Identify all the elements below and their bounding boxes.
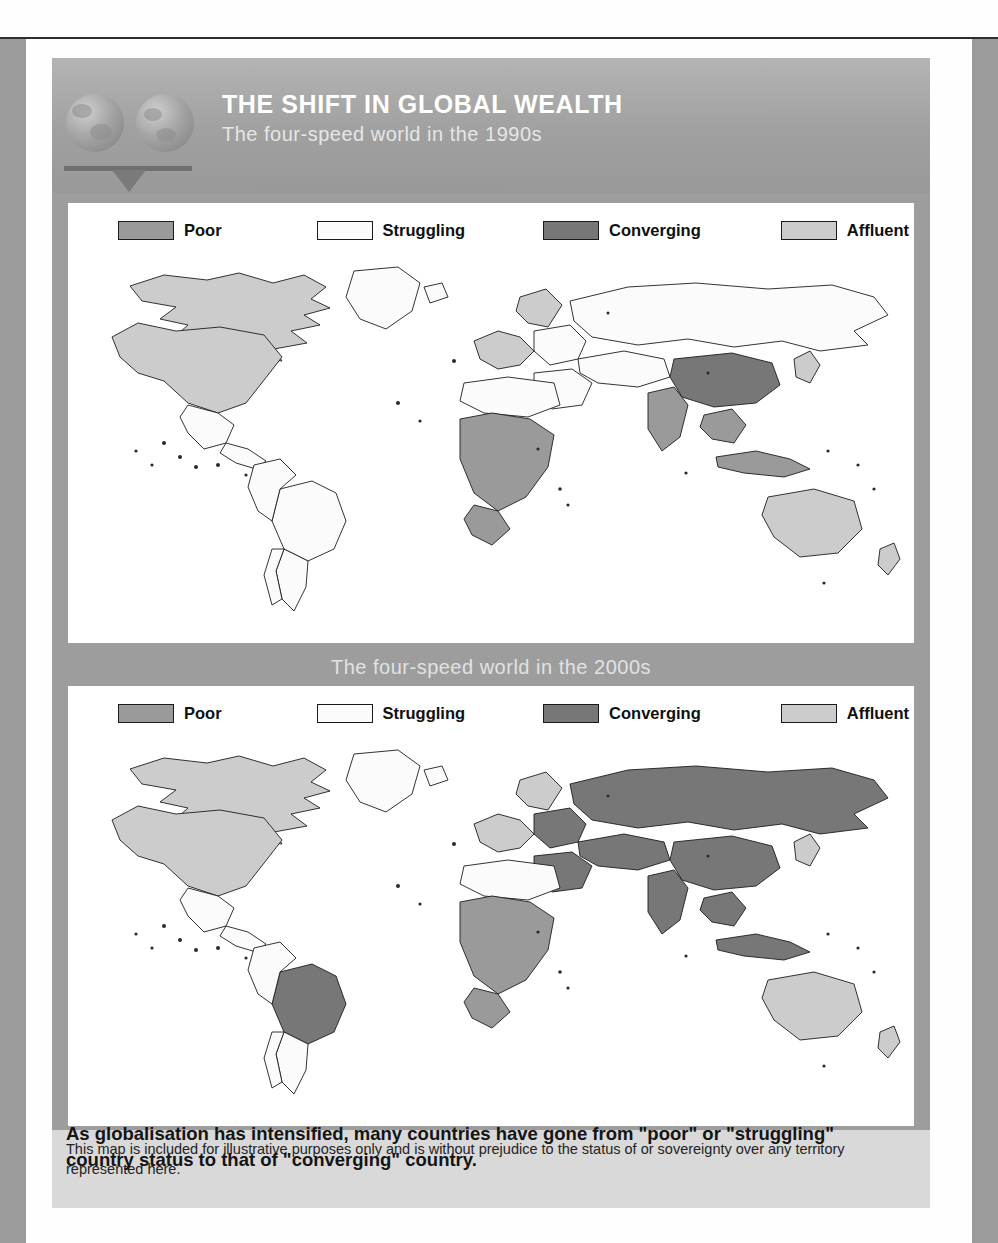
map-region[interactable] bbox=[762, 972, 862, 1040]
map-island-dot bbox=[150, 946, 153, 949]
map-region[interactable] bbox=[112, 806, 282, 896]
map-region[interactable] bbox=[460, 377, 560, 417]
legend-label-affluent: Affluent bbox=[847, 221, 909, 240]
header-subtitle: The four-speed world in the 1990s bbox=[222, 124, 623, 144]
map-island-dot bbox=[244, 473, 247, 476]
map-region[interactable] bbox=[578, 834, 670, 870]
map-island-dot bbox=[216, 463, 220, 467]
map-region[interactable] bbox=[346, 750, 420, 812]
legend-label-poor-2: Poor bbox=[184, 704, 222, 723]
caption-text: As globalisation has intensified, many c… bbox=[66, 1121, 896, 1172]
map-island-dot bbox=[178, 455, 182, 459]
legend-item-struggling[interactable]: Struggling bbox=[317, 221, 465, 240]
map-island-dot bbox=[684, 954, 687, 957]
map-region[interactable] bbox=[878, 543, 900, 575]
map-island-dot bbox=[162, 924, 166, 928]
map-region[interactable] bbox=[460, 896, 554, 994]
map-region[interactable] bbox=[112, 323, 282, 413]
map-region[interactable] bbox=[670, 836, 780, 890]
map-island-dot bbox=[826, 932, 829, 935]
map-region[interactable] bbox=[762, 489, 862, 557]
map-region[interactable] bbox=[578, 351, 670, 387]
map-region[interactable] bbox=[516, 772, 562, 810]
map-island-dot bbox=[162, 441, 166, 445]
legend-2000s: Poor Struggling Converging Affluent bbox=[68, 696, 914, 730]
legend-item-converging-2[interactable]: Converging bbox=[543, 704, 701, 723]
map-island-dot bbox=[607, 795, 610, 798]
legend-item-affluent-2[interactable]: Affluent bbox=[781, 704, 909, 723]
map-region[interactable] bbox=[794, 834, 820, 866]
legend-label-struggling-2: Struggling bbox=[383, 704, 465, 723]
legend-swatch-poor bbox=[118, 221, 174, 240]
map-island-dot bbox=[396, 884, 400, 888]
legend-item-struggling-2[interactable]: Struggling bbox=[317, 704, 465, 723]
map-island-dot bbox=[150, 463, 153, 466]
globe-right-icon bbox=[136, 94, 194, 152]
subtitle-band-2000s: The four-speed world in the 2000s bbox=[52, 650, 930, 684]
map-region[interactable] bbox=[424, 283, 448, 303]
map-region[interactable] bbox=[700, 892, 746, 926]
map-region[interactable] bbox=[460, 860, 560, 900]
map-region[interactable] bbox=[570, 766, 888, 834]
legend-swatch-affluent-2 bbox=[781, 704, 837, 723]
map-island-dot bbox=[134, 449, 137, 452]
map-subtitle-2000s: The four-speed world in the 2000s bbox=[331, 656, 651, 679]
map-region[interactable] bbox=[716, 934, 810, 960]
map-island-dot bbox=[418, 902, 421, 905]
content-slab: THE SHIFT IN GLOBAL WEALTH The four-spee… bbox=[52, 58, 930, 1208]
map-region[interactable] bbox=[794, 351, 820, 383]
map-island-dot bbox=[536, 930, 539, 933]
page-edge-left bbox=[0, 39, 26, 1243]
map-region[interactable] bbox=[570, 283, 888, 351]
legend-item-converging[interactable]: Converging bbox=[543, 221, 701, 240]
title-block: THE SHIFT IN GLOBAL WEALTH The four-spee… bbox=[222, 92, 623, 144]
map-region[interactable] bbox=[716, 451, 810, 477]
map-island-dot bbox=[558, 970, 562, 974]
header-band: THE SHIFT IN GLOBAL WEALTH The four-spee… bbox=[52, 58, 930, 193]
map-region[interactable] bbox=[670, 353, 780, 407]
map-island-dot bbox=[536, 447, 539, 450]
map-region[interactable] bbox=[460, 413, 554, 511]
map-island-dot bbox=[452, 359, 456, 363]
map-region[interactable] bbox=[180, 888, 234, 932]
legend-swatch-converging bbox=[543, 221, 599, 240]
map-region[interactable] bbox=[464, 988, 510, 1028]
legend-item-poor-2[interactable]: Poor bbox=[118, 704, 222, 723]
map-region[interactable] bbox=[516, 289, 562, 327]
legend-item-affluent[interactable]: Affluent bbox=[781, 221, 909, 240]
map-panel-1990s: Poor Struggling Converging Affluent bbox=[68, 203, 914, 643]
map-island-dot bbox=[872, 487, 875, 490]
page-top-rule bbox=[0, 37, 998, 39]
map-island-dot bbox=[452, 842, 456, 846]
map-island-dot bbox=[244, 956, 247, 959]
map-island-dot bbox=[216, 946, 220, 950]
map-island-dot bbox=[607, 312, 610, 315]
map-region[interactable] bbox=[474, 331, 534, 369]
map-island-dot bbox=[856, 463, 859, 466]
map-island-dot bbox=[566, 503, 569, 506]
map-island-dot bbox=[822, 1064, 825, 1067]
map-island-dot bbox=[566, 986, 569, 989]
world-map-1990s[interactable] bbox=[68, 253, 914, 638]
map-region[interactable] bbox=[346, 267, 420, 329]
map-region[interactable] bbox=[464, 505, 510, 545]
globe-left-icon bbox=[66, 94, 124, 152]
map-island-dot bbox=[134, 932, 137, 935]
map-island-dot bbox=[822, 581, 825, 584]
map-island-dot bbox=[872, 970, 875, 973]
map-region[interactable] bbox=[878, 1026, 900, 1058]
page-title: THE SHIFT IN GLOBAL WEALTH bbox=[222, 92, 623, 117]
map-region[interactable] bbox=[474, 814, 534, 852]
legend-label-converging: Converging bbox=[609, 221, 701, 240]
map-island-dot bbox=[418, 419, 421, 422]
page-edge-right bbox=[972, 39, 998, 1243]
legend-swatch-struggling bbox=[317, 221, 373, 240]
map-island-dot bbox=[856, 946, 859, 949]
map-region[interactable] bbox=[180, 405, 234, 449]
legend-item-poor[interactable]: Poor bbox=[118, 221, 222, 240]
legend-label-poor: Poor bbox=[184, 221, 222, 240]
legend-swatch-poor-2 bbox=[118, 704, 174, 723]
map-region[interactable] bbox=[700, 409, 746, 443]
world-map-2000s[interactable] bbox=[68, 736, 914, 1121]
map-region[interactable] bbox=[424, 766, 448, 786]
